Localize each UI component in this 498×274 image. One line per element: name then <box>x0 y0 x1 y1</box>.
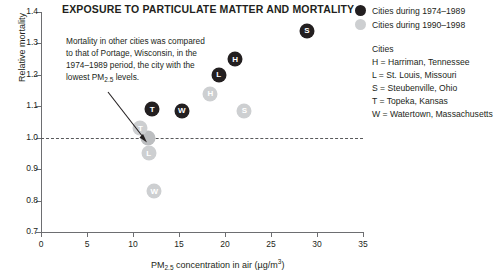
annotation-line-3: 1974–1989 period, the city with the <box>66 59 238 71</box>
x-tick-label: 25 <box>266 239 275 249</box>
annotation-line-1: Mortality in other cities was compared <box>66 35 238 47</box>
x-tick-mark <box>225 232 226 237</box>
annotation-subscript: 2.5 <box>104 76 113 83</box>
x-axis-title-superscript: 3 <box>278 258 282 265</box>
annotation-line-2: to that of Portage, Wisconsin, in the <box>66 47 238 59</box>
legend-label: Cities during 1990–1998 <box>372 20 465 30</box>
city-key-item-T: T = Topeka, Kansas <box>372 95 498 108</box>
y-tick-label: 1.2 <box>26 69 38 79</box>
y-tick-label: 1.0 <box>26 132 38 142</box>
data-point-dark-W[interactable]: W <box>174 103 189 118</box>
data-point-dark-S[interactable]: S <box>299 23 314 38</box>
city-key-title: Cities <box>372 44 498 54</box>
x-tick-label: 35 <box>358 239 367 249</box>
annotation-line-4-post: levels. <box>113 72 139 82</box>
data-point-dark-T[interactable]: T <box>145 102 160 117</box>
annotation-line-4: lowest PM2.5 levels. <box>66 71 238 83</box>
legend-item-1990-1998[interactable]: Cities during 1990–1998 <box>355 19 498 30</box>
city-key-item-S: S = Steubenville, Ohio <box>372 82 498 95</box>
data-point-light-S[interactable]: S <box>237 103 252 118</box>
x-tick-mark <box>87 232 88 237</box>
y-tick-label: 1.4 <box>26 6 38 16</box>
legend: Cities during 1974–1989 Cities during 19… <box>355 5 498 33</box>
x-axis-title-pre: PM <box>151 260 165 270</box>
chart-container: EXPOSURE TO PARTICULATE MATTER AND MORTA… <box>0 0 498 274</box>
x-tick-label: 20 <box>220 239 229 249</box>
legend-item-1974-1989[interactable]: Cities during 1974–1989 <box>355 5 498 16</box>
x-tick-label: 10 <box>128 239 137 249</box>
x-tick-mark <box>317 232 318 237</box>
city-key-item-W: W = Watertown, Massachusetts <box>372 108 498 121</box>
x-axis-line <box>41 232 363 233</box>
x-axis-title-subscript: 2.5 <box>165 264 174 271</box>
y-tick-label: 1.1 <box>26 100 38 110</box>
data-point-light-L[interactable]: L <box>141 146 156 161</box>
data-point-light-H[interactable]: H <box>203 86 218 101</box>
y-tick-label: 0.8 <box>26 195 38 205</box>
x-tick-mark <box>133 232 134 237</box>
y-axis-line <box>41 12 42 232</box>
reference-line-1.0 <box>41 138 363 139</box>
legend-label: Cities during 1974–1989 <box>372 6 465 16</box>
x-axis-title: PM2.5 concentration in air (µg/m3) <box>151 260 284 270</box>
x-tick-label: 0 <box>39 239 44 249</box>
y-tick-label: 0.9 <box>26 163 38 173</box>
x-tick-mark <box>41 232 42 237</box>
x-tick-label: 30 <box>312 239 321 249</box>
data-point-light-W[interactable]: W <box>147 184 162 199</box>
x-axis-title-mid: concentration in air (µg/m <box>174 260 278 270</box>
x-tick-label: 5 <box>85 239 90 249</box>
x-tick-mark <box>363 232 364 237</box>
city-key-item-L: L = St. Louis, Missouri <box>372 69 498 82</box>
annotation-line-4-pre: lowest PM <box>66 72 104 82</box>
y-tick-label: 0.7 <box>26 226 38 236</box>
city-key-item-H: H = Harriman, Tennessee <box>372 56 498 69</box>
legend-swatch-light-icon <box>355 19 366 30</box>
annotation-text: Mortality in other cities was compared t… <box>66 35 238 83</box>
legend-swatch-dark-icon <box>355 5 366 16</box>
y-axis-title: Relative mortality <box>17 13 27 82</box>
city-key: Cities H = Harriman, Tennessee L = St. L… <box>372 44 498 120</box>
y-tick-label: 1.3 <box>26 37 38 47</box>
x-tick-mark <box>271 232 272 237</box>
x-tick-label: 15 <box>174 239 183 249</box>
x-axis-title-post: ) <box>281 260 284 270</box>
x-tick-mark <box>179 232 180 237</box>
data-point-light-T[interactable]: T <box>133 121 148 136</box>
